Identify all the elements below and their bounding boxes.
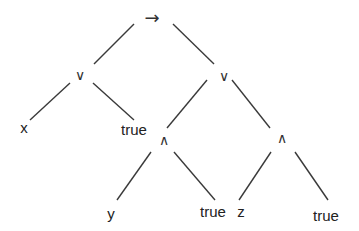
edge-and_left-y xyxy=(117,152,151,200)
leaf-true-3: true xyxy=(313,208,339,223)
edge-or_right-and_left xyxy=(167,80,207,128)
node-and-left: ∧ xyxy=(159,133,169,147)
node-implies: → xyxy=(144,9,159,27)
node-and-right: ∧ xyxy=(277,131,287,145)
edge-or_left-true1 xyxy=(93,83,134,120)
leaf-x: x xyxy=(20,120,28,135)
leaf-true-2: true xyxy=(200,204,226,219)
edge-and_left-true2 xyxy=(174,152,215,200)
leaf-z: z xyxy=(237,204,245,219)
edge-root-or_left xyxy=(94,24,134,64)
node-or-left: ∨ xyxy=(75,68,85,82)
edge-and_right-true3 xyxy=(295,152,328,200)
edge-and_right-z xyxy=(239,152,271,200)
leaf-true-1: true xyxy=(121,122,147,137)
tree-edges xyxy=(0,0,359,231)
leaf-y: y xyxy=(107,206,115,221)
edge-or_left-x xyxy=(30,83,70,120)
node-or-right: ∨ xyxy=(219,69,229,83)
edge-root-or_right xyxy=(173,24,214,64)
edge-or_right-and_right xyxy=(232,80,270,128)
